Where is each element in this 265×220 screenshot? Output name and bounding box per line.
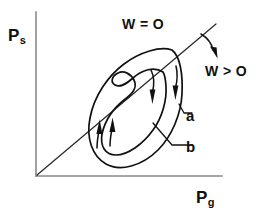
curve-a-label: a [186,108,194,123]
loop-a-outer [89,49,182,168]
loop-b-asc-head [109,118,115,133]
figure-canvas [0,0,265,220]
loop-a-descending-arrow [173,66,179,100]
positive-work-label: W > O [205,64,247,78]
y-axis-subscript: s [20,34,26,46]
work-direction-arrow [201,34,218,59]
loop-a-desc-tail [176,66,178,88]
loop-a-asc-head [96,120,102,135]
loop-b-desc-tail [151,70,154,92]
loop-b-path [102,69,167,155]
curve-b-label: b [186,139,195,154]
loop-b-inner [102,69,167,155]
y-axis-symbol: P [8,26,19,45]
loop-b-desc-head [150,90,156,105]
x-axis-symbol: P [196,188,207,207]
x-axis-subscript: g [208,196,215,208]
work-arrow-head [210,47,218,59]
zero-work-label: W = O [122,17,164,31]
x-axis-label: Pg [196,189,215,208]
y-axis-label: Ps [8,27,26,46]
loop-a-path [89,49,182,168]
work-loop-figure: Ps Pg W = O W > O a b [0,0,265,220]
loop-b-ascending-arrow [109,118,115,147]
loop-a-desc-head [173,86,179,101]
